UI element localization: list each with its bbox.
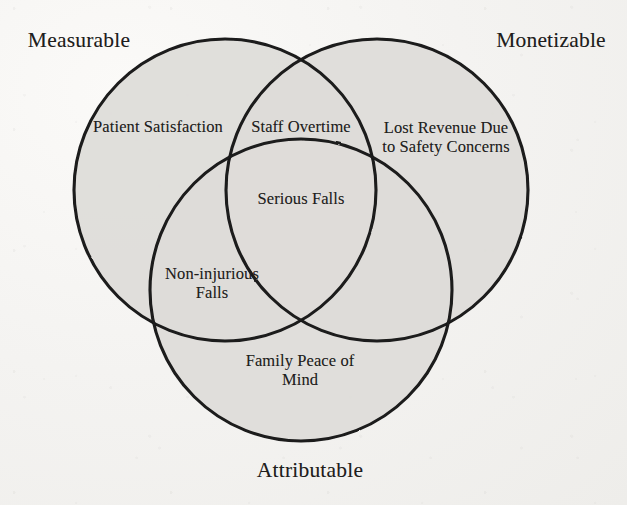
- set-label-measurable: Measurable: [28, 28, 130, 53]
- venn-diagram-figure: Measurable Monetizable Attributable Pati…: [0, 0, 627, 505]
- region-label-measurable-attributable: Non-injurious Falls: [165, 264, 259, 302]
- set-label-monetizable: Monetizable: [496, 28, 606, 53]
- set-label-attributable: Attributable: [257, 458, 363, 483]
- region-label-attributable-only: Family Peace of Mind: [246, 351, 355, 389]
- venn-circles: [0, 0, 627, 505]
- region-label-measurable-only: Patient Satisfaction: [93, 117, 223, 136]
- region-label-measurable-monetizable: Staff Overtime: [251, 117, 351, 136]
- region-label-all-three: Serious Falls: [257, 189, 344, 208]
- region-label-monetizable-only: Lost Revenue Due to Safety Concerns: [382, 118, 509, 156]
